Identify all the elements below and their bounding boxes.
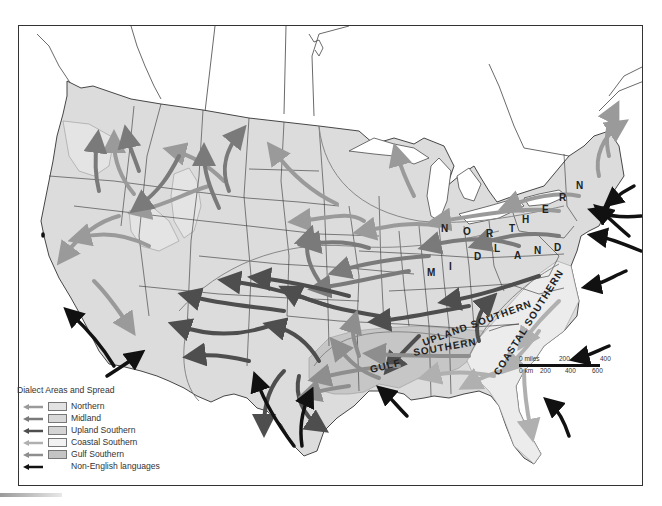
label-midland-m: M [427, 267, 436, 278]
scale-km-tick: 600 [592, 367, 603, 374]
legend-item-midland: Midland [17, 414, 217, 425]
label-midland-a: A [514, 250, 522, 261]
upland-southern-arrow-icon [23, 428, 43, 434]
scale-miles-tick: 400 [600, 355, 611, 362]
legend-label: Midland [71, 413, 101, 423]
legend-label: Coastal Southern [71, 437, 137, 447]
legend-label: Gulf Southern [71, 449, 124, 459]
label-northern-n2: N [576, 180, 584, 191]
legend-item-coastal-southern: Coastal Southern [17, 438, 217, 449]
non-english-arrow-icon [23, 464, 43, 470]
label-midland-i: I [449, 261, 453, 272]
legend-title: Dialect Areas and Spread [17, 385, 114, 395]
label-northern-n1: N [441, 223, 449, 234]
legend-item-northern: Northern [17, 402, 217, 413]
label-northern-t: T [509, 223, 516, 234]
upland-southern-swatch [48, 426, 67, 435]
legend-label: Northern [71, 401, 104, 411]
scale-miles-tick: 200 [559, 355, 570, 362]
coastal-southern-arrow-icon [23, 440, 43, 446]
label-northern-r2: R [559, 192, 567, 203]
scale-km-tick: 200 [540, 367, 551, 374]
legend-item-non-english: Non-English languages [17, 462, 217, 473]
label-northern-r1: R [486, 228, 494, 239]
legend-item-upland-southern: Upland Southern [17, 426, 217, 437]
gulf-southern-swatch [48, 450, 67, 459]
label-midland-n: N [534, 245, 542, 256]
decorative-bar [0, 493, 62, 497]
scale-km-label: 0 km [519, 367, 533, 374]
northern-swatch [48, 402, 67, 411]
northern-arrow-icon [23, 404, 43, 410]
label-northern-o: O [463, 226, 472, 237]
legend-label: Upland Southern [71, 425, 136, 435]
midland-arrow-icon [23, 416, 43, 422]
label-midland-d2: D [554, 242, 562, 253]
midland-swatch [48, 414, 67, 423]
label-midland-d1: D [474, 251, 482, 262]
label-northern-h: H [522, 214, 530, 225]
legend-item-gulf-southern: Gulf Southern [17, 450, 217, 461]
coastal-southern-swatch [48, 438, 67, 447]
scale-km-tick: 400 [565, 367, 576, 374]
label-midland-l: L [494, 243, 501, 254]
gulf-southern-arrow-icon [23, 452, 43, 458]
label-northern-e: E [542, 204, 550, 215]
scale-miles-label: 0 miles [519, 355, 540, 362]
legend-label: Non-English languages [71, 461, 160, 471]
